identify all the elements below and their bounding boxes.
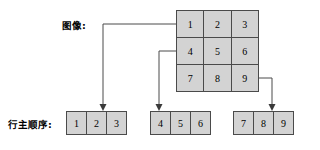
matrix-cell: 4 (177, 38, 203, 64)
matrix-cell: 7 (177, 65, 203, 91)
array-cell: 5 (171, 112, 190, 134)
connector-row-3 (259, 78, 272, 105)
matrix-cell: 9 (232, 65, 258, 91)
array-cell: 8 (254, 112, 273, 134)
matrix-cell: 2 (204, 11, 230, 37)
row-major-order-diagram: 图像: 行主顺序: 1 2 3 4 5 6 7 8 9 1 2 3 4 5 6 … (0, 0, 320, 150)
array-cell: 4 (151, 112, 170, 134)
row-major-order-label: 行主顺序: (8, 117, 52, 131)
linear-array-row-2: 4 5 6 (150, 111, 211, 135)
matrix-cell: 5 (204, 38, 230, 64)
matrix-cell: 1 (177, 11, 203, 37)
connector-row-2 (159, 51, 176, 105)
connector-row-1 (103, 24, 176, 105)
array-cell: 7 (234, 112, 253, 134)
array-cell: 9 (274, 112, 293, 134)
linear-array-row-1: 1 2 3 (66, 111, 127, 135)
image-matrix: 1 2 3 4 5 6 7 8 9 (176, 10, 259, 92)
array-cell: 2 (87, 112, 106, 134)
arrowhead-row-1 (100, 104, 107, 111)
matrix-cell: 3 (232, 11, 258, 37)
image-label: 图像: (62, 18, 86, 32)
array-cell: 1 (67, 112, 86, 134)
matrix-cell: 8 (204, 65, 230, 91)
matrix-cell: 6 (232, 38, 258, 64)
array-cell: 6 (191, 112, 210, 134)
array-cell: 3 (107, 112, 126, 134)
linear-array-row-3: 7 8 9 (233, 111, 294, 135)
arrowhead-row-3 (269, 104, 276, 111)
arrowhead-row-2 (156, 104, 163, 111)
